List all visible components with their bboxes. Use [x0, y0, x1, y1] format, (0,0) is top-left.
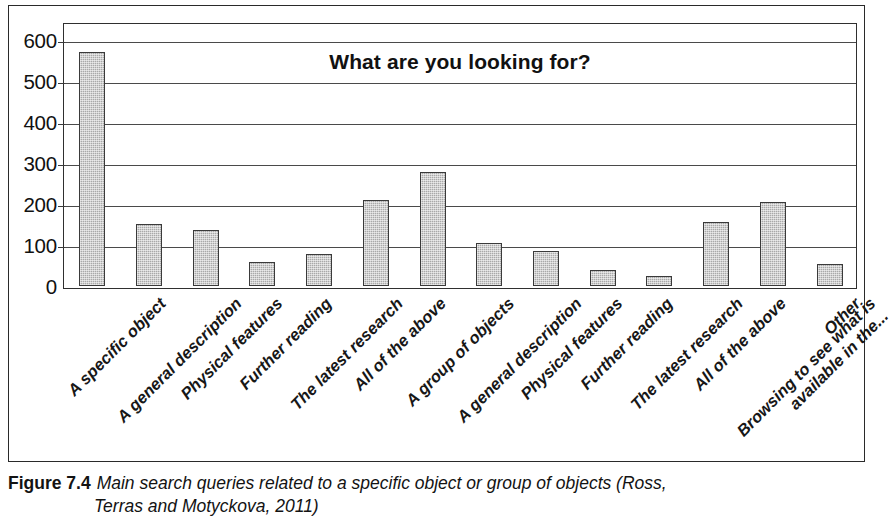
bar[interactable]	[420, 172, 446, 286]
bar-slot	[688, 24, 745, 288]
x-label-slot: A specific object	[63, 292, 120, 460]
bars-layer	[64, 24, 856, 288]
bar-slot	[631, 24, 688, 288]
bar-slot	[461, 24, 518, 288]
x-label-slot: A general description	[120, 292, 177, 460]
bar-slot	[177, 24, 234, 288]
x-axis-label-line: Other	[820, 294, 864, 338]
bar-slot	[518, 24, 575, 288]
x-label-slot: Physical features	[517, 292, 574, 460]
x-label-slot: The latest research	[630, 292, 687, 460]
bar[interactable]	[760, 202, 786, 286]
bar[interactable]	[136, 224, 162, 286]
x-label-slot: Further reading	[573, 292, 630, 460]
bar[interactable]	[533, 251, 559, 286]
bar[interactable]	[817, 264, 843, 286]
bar-slot	[801, 24, 858, 288]
caption-line-1: Main search queries related to a specifi…	[97, 473, 667, 493]
bar-slot	[291, 24, 348, 288]
bar[interactable]	[646, 276, 672, 286]
y-axis-tick-labels: 0100200300400500600	[9, 23, 57, 289]
y-tick-label-400: 400	[11, 113, 57, 134]
bar[interactable]	[79, 52, 105, 286]
x-axis-category-labels: A specific objectA general descriptionPh…	[63, 292, 857, 460]
y-tick-label-200: 200	[11, 195, 57, 216]
x-label-slot: All of the above	[687, 292, 744, 460]
bar[interactable]	[590, 270, 616, 286]
bar-slot	[121, 24, 178, 288]
bar[interactable]	[193, 230, 219, 286]
caption-line-2: Terras and Motyckova, 2011)	[94, 495, 868, 518]
x-label-slot: The latest research	[290, 292, 347, 460]
figure-caption: Figure 7.4Main search queries related to…	[8, 472, 868, 518]
bar[interactable]	[476, 243, 502, 286]
figure-frame: 0100200300400500600 What are you looking…	[8, 5, 865, 462]
figure-number: Figure 7.4	[8, 473, 91, 493]
y-tick-label-500: 500	[11, 72, 57, 93]
bar-slot	[574, 24, 631, 288]
x-label-slot: Further reading	[233, 292, 290, 460]
bar-slot	[404, 24, 461, 288]
x-label-slot: Other	[800, 292, 857, 460]
bar-slot	[234, 24, 291, 288]
y-tick-label-300: 300	[11, 154, 57, 175]
bar-slot	[348, 24, 405, 288]
y-tick-label-0: 0	[11, 277, 57, 298]
bar[interactable]	[363, 200, 389, 286]
y-tick-label-100: 100	[11, 236, 57, 257]
bar-slot	[64, 24, 121, 288]
y-tick-label-600: 600	[11, 31, 57, 52]
bar[interactable]	[306, 254, 332, 286]
x-label-slot: A general description	[460, 292, 517, 460]
bar[interactable]	[249, 262, 275, 286]
x-label-slot: All of the above	[347, 292, 404, 460]
chart-plot-area: What are you looking for?	[63, 23, 857, 289]
x-label-slot: Browsing to see what isavailable in the.…	[744, 292, 801, 460]
bar[interactable]	[703, 222, 729, 286]
x-label-slot: Physical features	[176, 292, 233, 460]
x-label-slot: A group of objects	[403, 292, 460, 460]
bar-slot	[745, 24, 802, 288]
